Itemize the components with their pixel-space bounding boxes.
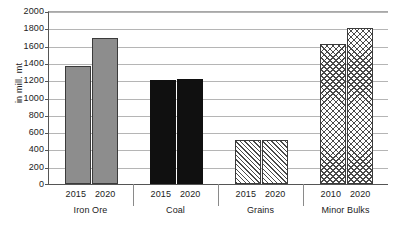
y-tick-label: 1600	[8, 41, 44, 50]
y-tick-label: 1000	[8, 93, 44, 102]
y-tick-label: 800	[8, 110, 44, 119]
x-series-labels: 20152020	[133, 188, 218, 201]
bar	[150, 80, 176, 184]
y-tick-label: 0	[8, 180, 44, 189]
x-series-label: 2020	[95, 188, 115, 201]
y-tick-label: 600	[8, 128, 44, 137]
x-category-label: Minor Bulks	[303, 204, 388, 217]
bar	[65, 66, 91, 185]
x-category-label: Coal	[133, 204, 218, 217]
bar	[347, 28, 373, 184]
y-tick-label: 1400	[8, 58, 44, 67]
x-series-label: 2015	[151, 188, 171, 201]
y-axis-tick-labels: 2000180016001400120010008006004002000	[8, 0, 44, 227]
x-category-label: Grains	[218, 204, 303, 217]
x-series-label: 2020	[265, 188, 285, 201]
x-series-labels: 20152020	[48, 188, 133, 201]
bar	[92, 38, 118, 184]
bar	[235, 140, 261, 184]
bars-layer	[49, 12, 388, 184]
x-series-labels: 20102020	[303, 188, 388, 201]
bar-chart: in mill. mt 2000180016001400120010008006…	[0, 0, 395, 227]
x-category-label: Iron Ore	[48, 204, 133, 217]
x-series-label: 2010	[321, 188, 341, 201]
x-group-separator	[218, 184, 219, 206]
y-tick-label: 1200	[8, 76, 44, 85]
bar	[320, 44, 346, 184]
x-axis: 20152020Iron Ore20152020Coal20152020Grai…	[48, 184, 388, 227]
x-series-label: 2015	[66, 188, 86, 201]
y-tick-label: 1800	[8, 24, 44, 33]
x-series-label: 2020	[350, 188, 370, 201]
x-series-label: 2020	[180, 188, 200, 201]
bar	[177, 79, 203, 184]
x-series-label: 2015	[236, 188, 256, 201]
x-group-separator	[133, 184, 134, 206]
x-group-separator	[303, 184, 304, 206]
y-tick-label: 2000	[8, 7, 44, 16]
y-tick-label: 400	[8, 145, 44, 154]
plot-area	[48, 11, 388, 184]
y-tick-label: 200	[8, 162, 44, 171]
x-series-labels: 20152020	[218, 188, 303, 201]
bar	[262, 140, 288, 184]
